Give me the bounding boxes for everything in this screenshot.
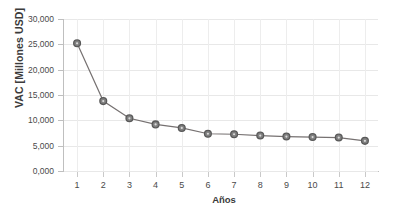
x-tick-label: 2 xyxy=(92,180,114,190)
y-tick-label: 25,000 xyxy=(28,39,54,49)
data-point-marker-center xyxy=(259,134,261,136)
y-tick-label: 0,000 xyxy=(33,166,54,176)
gridline-horizontal xyxy=(64,171,378,172)
y-tick-label: 10,000 xyxy=(28,115,54,125)
x-tick-label: 5 xyxy=(171,180,193,190)
x-tick-label: 1 xyxy=(66,180,88,190)
x-tick-label: 3 xyxy=(118,180,140,190)
x-tick-label: 4 xyxy=(145,180,167,190)
data-point-marker-center xyxy=(311,136,313,138)
data-point-marker-center xyxy=(207,133,209,135)
data-point-marker-center xyxy=(233,133,235,135)
x-tick-label: 8 xyxy=(249,180,271,190)
x-tick-label: 9 xyxy=(275,180,297,190)
data-point-marker-center xyxy=(128,117,130,119)
data-series-vac xyxy=(64,19,378,171)
y-tick-label: 20,000 xyxy=(28,65,54,75)
x-tick-label: 6 xyxy=(197,180,219,190)
data-point-marker-center xyxy=(285,135,287,137)
y-tick-label: 30,000 xyxy=(28,14,54,24)
data-point-marker-center xyxy=(154,123,156,125)
line-chart: VAC [Millones USD] 0,0005,00010,00015,00… xyxy=(0,0,394,219)
x-tick-label: 12 xyxy=(354,180,376,190)
x-axis-title: Años xyxy=(0,194,394,205)
data-point-marker-center xyxy=(338,136,340,138)
x-tick-label: 10 xyxy=(302,180,324,190)
y-axis-title: VAC [Millones USD] xyxy=(13,0,25,118)
data-point-marker-center xyxy=(76,42,78,44)
y-tick-label: 5,000 xyxy=(33,141,54,151)
y-tick-label: 15,000 xyxy=(28,90,54,100)
data-point-marker-center xyxy=(181,127,183,129)
data-point-marker-center xyxy=(364,140,366,142)
series-line xyxy=(77,43,365,141)
plot-area xyxy=(64,19,378,171)
data-point-marker-center xyxy=(102,100,104,102)
x-tick-label: 11 xyxy=(328,180,350,190)
x-tick-label: 7 xyxy=(223,180,245,190)
